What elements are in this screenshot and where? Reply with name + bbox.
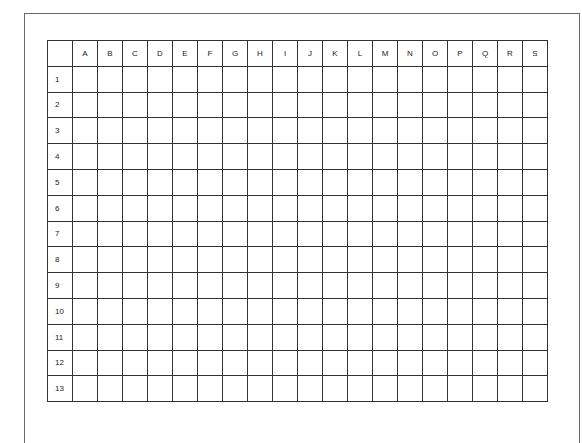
grid-cell-s8[interactable] [523,247,548,273]
grid-cell-f11[interactable] [198,324,223,350]
grid-cell-r12[interactable] [498,350,523,376]
grid-cell-a6[interactable] [73,195,98,221]
grid-cell-k6[interactable] [323,195,348,221]
grid-cell-p2[interactable] [448,92,473,118]
grid-cell-q1[interactable] [473,66,498,92]
grid-cell-l6[interactable] [348,195,373,221]
grid-cell-g8[interactable] [223,247,248,273]
grid-cell-q5[interactable] [473,169,498,195]
grid-cell-s12[interactable] [523,350,548,376]
grid-cell-n10[interactable] [398,298,423,324]
grid-cell-e12[interactable] [173,350,198,376]
grid-cell-m3[interactable] [373,118,398,144]
grid-cell-p9[interactable] [448,273,473,299]
grid-cell-m2[interactable] [373,92,398,118]
grid-cell-r2[interactable] [498,92,523,118]
grid-cell-s10[interactable] [523,298,548,324]
grid-cell-p4[interactable] [448,144,473,170]
grid-cell-m1[interactable] [373,66,398,92]
grid-cell-h2[interactable] [248,92,273,118]
grid-cell-o13[interactable] [423,376,448,402]
grid-cell-l11[interactable] [348,324,373,350]
grid-cell-e8[interactable] [173,247,198,273]
grid-cell-o6[interactable] [423,195,448,221]
grid-cell-m12[interactable] [373,350,398,376]
grid-cell-d9[interactable] [148,273,173,299]
grid-cell-o11[interactable] [423,324,448,350]
grid-cell-n4[interactable] [398,144,423,170]
grid-cell-g9[interactable] [223,273,248,299]
grid-cell-a1[interactable] [73,66,98,92]
grid-cell-n13[interactable] [398,376,423,402]
grid-cell-d11[interactable] [148,324,173,350]
grid-cell-b12[interactable] [98,350,123,376]
grid-cell-q9[interactable] [473,273,498,299]
grid-cell-e13[interactable] [173,376,198,402]
grid-cell-i9[interactable] [273,273,298,299]
grid-cell-j4[interactable] [298,144,323,170]
grid-cell-q11[interactable] [473,324,498,350]
grid-cell-k7[interactable] [323,221,348,247]
grid-cell-i10[interactable] [273,298,298,324]
grid-cell-j6[interactable] [298,195,323,221]
grid-cell-f8[interactable] [198,247,223,273]
grid-cell-k1[interactable] [323,66,348,92]
grid-cell-c2[interactable] [123,92,148,118]
grid-cell-s3[interactable] [523,118,548,144]
grid-cell-q8[interactable] [473,247,498,273]
grid-cell-s1[interactable] [523,66,548,92]
grid-cell-a8[interactable] [73,247,98,273]
grid-cell-f7[interactable] [198,221,223,247]
grid-cell-h12[interactable] [248,350,273,376]
grid-cell-p11[interactable] [448,324,473,350]
grid-cell-e9[interactable] [173,273,198,299]
grid-cell-g3[interactable] [223,118,248,144]
grid-cell-m8[interactable] [373,247,398,273]
grid-cell-f4[interactable] [198,144,223,170]
grid-cell-b11[interactable] [98,324,123,350]
grid-cell-q12[interactable] [473,350,498,376]
grid-cell-e5[interactable] [173,169,198,195]
grid-cell-a13[interactable] [73,376,98,402]
grid-cell-l5[interactable] [348,169,373,195]
grid-cell-k4[interactable] [323,144,348,170]
grid-cell-g4[interactable] [223,144,248,170]
grid-cell-e2[interactable] [173,92,198,118]
grid-cell-i13[interactable] [273,376,298,402]
grid-cell-d2[interactable] [148,92,173,118]
grid-cell-o5[interactable] [423,169,448,195]
grid-cell-c10[interactable] [123,298,148,324]
grid-cell-n2[interactable] [398,92,423,118]
grid-cell-r13[interactable] [498,376,523,402]
grid-cell-g5[interactable] [223,169,248,195]
grid-cell-b6[interactable] [98,195,123,221]
grid-cell-s11[interactable] [523,324,548,350]
grid-cell-d10[interactable] [148,298,173,324]
grid-cell-b3[interactable] [98,118,123,144]
grid-cell-o1[interactable] [423,66,448,92]
grid-cell-d6[interactable] [148,195,173,221]
grid-cell-c9[interactable] [123,273,148,299]
grid-cell-j12[interactable] [298,350,323,376]
grid-cell-d7[interactable] [148,221,173,247]
grid-cell-q13[interactable] [473,376,498,402]
grid-cell-h1[interactable] [248,66,273,92]
grid-cell-b7[interactable] [98,221,123,247]
grid-cell-b5[interactable] [98,169,123,195]
grid-cell-q10[interactable] [473,298,498,324]
grid-cell-b9[interactable] [98,273,123,299]
grid-cell-s5[interactable] [523,169,548,195]
grid-cell-i11[interactable] [273,324,298,350]
grid-cell-d1[interactable] [148,66,173,92]
grid-cell-l7[interactable] [348,221,373,247]
grid-cell-o4[interactable] [423,144,448,170]
grid-cell-m5[interactable] [373,169,398,195]
grid-cell-f1[interactable] [198,66,223,92]
grid-cell-i6[interactable] [273,195,298,221]
grid-cell-j11[interactable] [298,324,323,350]
grid-cell-o9[interactable] [423,273,448,299]
grid-cell-d8[interactable] [148,247,173,273]
grid-cell-h7[interactable] [248,221,273,247]
grid-cell-k12[interactable] [323,350,348,376]
grid-cell-c11[interactable] [123,324,148,350]
